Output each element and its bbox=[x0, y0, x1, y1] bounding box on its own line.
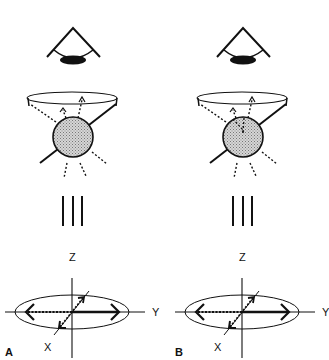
panel-b bbox=[175, 28, 315, 358]
axis-label-z-b: Z bbox=[239, 252, 246, 263]
axis-label-z-a: Z bbox=[69, 252, 76, 263]
axis-label-y-a: Y bbox=[152, 307, 159, 318]
axis-label-x-b: X bbox=[214, 342, 221, 353]
panel-label-a: A bbox=[5, 347, 13, 358]
panel-label-b: B bbox=[175, 347, 183, 358]
axis-label-y-b: Y bbox=[322, 307, 329, 318]
panel-a bbox=[5, 28, 145, 358]
axis-label-x-a: X bbox=[44, 342, 51, 353]
